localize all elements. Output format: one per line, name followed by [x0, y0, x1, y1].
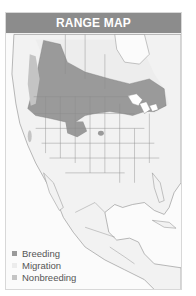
legend-item-migration: Migration [12, 259, 76, 271]
legend-item-nonbreeding: Nonbreeding [12, 271, 76, 283]
legend-label: Nonbreeding [22, 272, 76, 283]
range-map-card: RANGE MAP [5, 12, 182, 290]
range-map-title: RANGE MAP [56, 16, 131, 30]
legend-label: Breeding [22, 248, 60, 259]
legend-label: Migration [22, 260, 61, 271]
legend-item-breeding: Breeding [12, 247, 76, 259]
migration-swatch-icon [12, 263, 17, 268]
breeding-swatch-icon [12, 251, 17, 256]
nonbreeding-swatch-icon [12, 275, 17, 280]
range-map-header: RANGE MAP [6, 13, 181, 33]
map-legend: Breeding Migration Nonbreeding [12, 247, 76, 283]
